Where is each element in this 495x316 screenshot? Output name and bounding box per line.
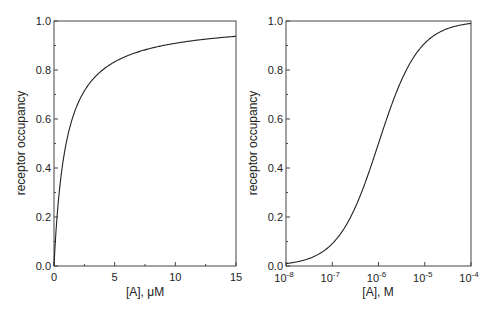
chart-canvas: 0.00.20.40.60.81.0 051015 [A], μM recept… xyxy=(0,0,495,316)
left-plot-frame xyxy=(54,21,236,266)
right-occupancy-curve xyxy=(286,23,471,263)
right-x-tick-label: 10-4 xyxy=(459,270,479,284)
right-y-tick-label: 0.6 xyxy=(268,113,283,125)
left-y-tick-label: 1.0 xyxy=(36,15,51,27)
left-x-tick-label: 5 xyxy=(112,271,118,283)
left-y-axis: 0.00.20.40.60.81.0 xyxy=(36,15,58,272)
left-y-tick-label: 0.6 xyxy=(36,113,51,125)
right-y-tick-label: 0.4 xyxy=(268,162,283,174)
left-x-axis: 051015 xyxy=(51,262,242,283)
left-y-tick-label: 0.4 xyxy=(36,162,51,174)
left-y-tick-label: 0.2 xyxy=(36,211,51,223)
left-y-axis-label: receptor occupancy xyxy=(14,91,28,196)
left-x-axis-label: [A], μM xyxy=(126,285,164,299)
left-y-tick-label: 0.8 xyxy=(36,64,51,76)
left-x-tick-label: 15 xyxy=(230,271,242,283)
right-y-axis-label: receptor occupancy xyxy=(246,91,260,196)
right-y-tick-label: 0.8 xyxy=(268,64,283,76)
right-y-tick-label: 0.2 xyxy=(268,211,283,223)
right-plot: 0.00.20.40.60.81.0 10-810-710-610-510-4 … xyxy=(246,15,479,299)
right-x-tick-label: 10-7 xyxy=(321,270,341,284)
right-y-axis: 0.00.20.40.60.81.0 xyxy=(268,15,290,272)
right-x-tick-label: 10-6 xyxy=(367,270,387,284)
left-x-tick-label: 10 xyxy=(169,271,181,283)
right-y-tick-label: 0.0 xyxy=(268,260,283,272)
right-x-axis: 10-810-710-610-510-4 xyxy=(274,262,479,284)
right-x-tick-label: 10-8 xyxy=(274,270,294,284)
left-y-tick-label: 0.0 xyxy=(36,260,51,272)
left-plot: 0.00.20.40.60.81.0 051015 [A], μM recept… xyxy=(14,15,242,299)
right-y-tick-label: 1.0 xyxy=(268,15,283,27)
right-x-axis-label: [A], M xyxy=(362,285,393,299)
left-x-tick-label: 0 xyxy=(51,271,57,283)
left-occupancy-curve xyxy=(54,36,236,266)
right-x-tick-label: 10-5 xyxy=(413,270,433,284)
